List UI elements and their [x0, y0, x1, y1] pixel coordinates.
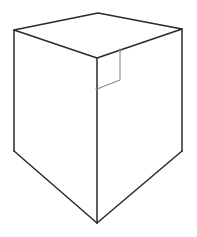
marker-point-bottom [96, 88, 98, 90]
right-angle-marker-line [97, 50, 120, 89]
top-face [14, 13, 182, 58]
left-bottom-slant-edge [14, 151, 97, 223]
top-face-outline [14, 13, 182, 58]
prism-diagram [0, 0, 197, 237]
right-angle-marker [96, 49, 121, 90]
marker-point-top [119, 49, 121, 51]
right-bottom-slant-edge [97, 151, 182, 223]
